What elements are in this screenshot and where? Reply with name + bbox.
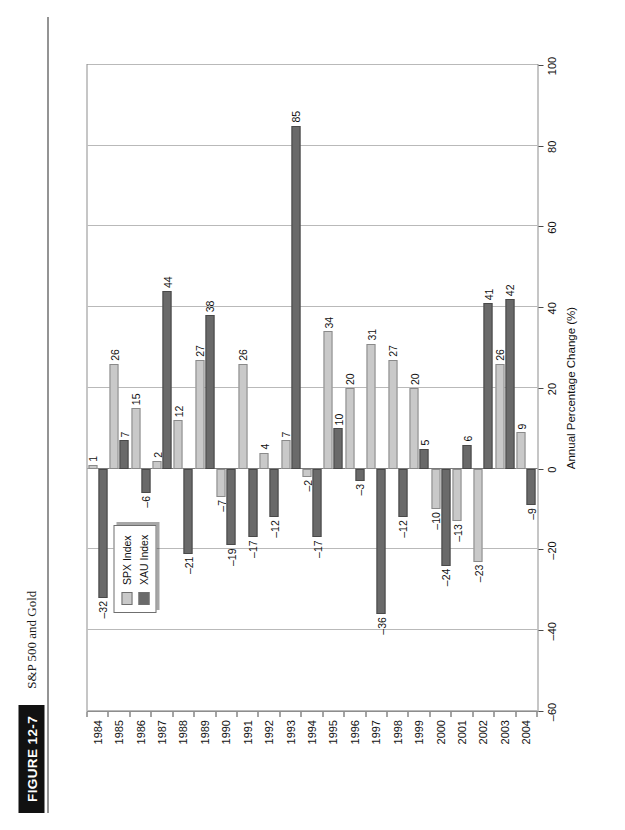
bar-value-label: 38: [203, 301, 215, 313]
legend-item-xau: XAU Index: [137, 535, 149, 605]
category-label: 2002: [476, 720, 488, 744]
category-label: 1990: [219, 720, 231, 744]
category-label: 1987: [155, 720, 167, 744]
bar-value-label: 6: [461, 436, 473, 442]
bar-spx-2001: [452, 469, 461, 521]
plot-inner: 1–3226715–624412–212738–7–1926–174–12785…: [87, 65, 537, 711]
gridline: [87, 629, 537, 630]
bar-value-label: –10: [429, 512, 441, 530]
bar-value-label: 4: [258, 444, 270, 450]
bar-spx-2003: [495, 364, 504, 469]
bar-xau-2000: [441, 469, 450, 566]
bar-spx-1996: [345, 388, 354, 469]
figure-header: FIGURE 12-7 S&P 500 and Gold: [18, 17, 44, 813]
bar-value-label: 42: [503, 285, 515, 297]
bar-spx-1991: [238, 364, 247, 469]
legend-item-spx: SPX Index: [120, 535, 132, 605]
bar-xau-1997: [376, 469, 385, 614]
category-label: 1988: [176, 720, 188, 744]
bar-xau-1987: [162, 291, 171, 469]
bar-value-label: 5: [418, 440, 430, 446]
gridline: [87, 226, 537, 227]
bar-value-label: 41: [482, 289, 494, 301]
bar-spx-1994: [302, 469, 311, 477]
figure-number-badge: FIGURE 12-7: [18, 705, 44, 813]
category-label: 1995: [326, 720, 338, 744]
bar-spx-1988: [173, 420, 182, 468]
category-label: 1991: [241, 720, 253, 744]
bar-value-label: 20: [343, 373, 355, 385]
category-tick: [429, 712, 430, 717]
category-tick: [343, 712, 344, 717]
category-tick: [407, 712, 408, 717]
bar-value-label: 7: [118, 432, 130, 438]
category-label: 1999: [412, 720, 424, 744]
gridline: [87, 306, 537, 307]
bar-value-label: 27: [386, 345, 398, 357]
category-label: 1986: [134, 720, 146, 744]
category-tick: [300, 712, 301, 717]
category-tick: [150, 712, 151, 717]
bar-spx-2004: [516, 432, 525, 468]
bar-value-label: 20: [408, 373, 420, 385]
bar-spx-1993: [281, 441, 290, 469]
value-tick-label: 100: [545, 57, 557, 75]
bar-xau-1995: [333, 428, 342, 468]
category-label: 2000: [434, 720, 446, 744]
bar-xau-1988: [183, 469, 192, 554]
category-tick: [257, 712, 258, 717]
category-tick: [107, 712, 108, 717]
category-tick: [450, 712, 451, 717]
category-tick: [515, 712, 516, 717]
value-tick-label: 80: [545, 141, 557, 153]
category-label: 1984: [91, 720, 103, 744]
category-label: 2003: [498, 720, 510, 744]
bar-value-label: 34: [322, 317, 334, 329]
bar-spx-1986: [131, 408, 140, 469]
value-tick-label: 0: [545, 467, 557, 473]
value-tick-label: 40: [545, 302, 557, 314]
category-tick: [129, 712, 130, 717]
category-label: 1992: [262, 720, 274, 744]
bar-value-label: –17: [246, 540, 258, 558]
bar-value-label: 31: [365, 329, 377, 341]
bar-spx-1992: [259, 453, 268, 469]
bar-spx-2002: [473, 469, 482, 562]
bar-value-label: 85: [289, 111, 301, 123]
category-label: 1998: [391, 720, 403, 744]
category-tick: [472, 712, 473, 717]
category-label: 1985: [112, 720, 124, 744]
bar-xau-1985: [119, 441, 128, 469]
legend-label-spx: SPX Index: [120, 535, 132, 585]
category-label: 1996: [348, 720, 360, 744]
bar-value-label: –36: [375, 617, 387, 635]
value-tick: [538, 227, 543, 228]
category-label: 1994: [305, 720, 317, 744]
chart-panel: 1–3226715–624412–212738–7–1926–174–12785…: [74, 34, 584, 774]
bar-value-label: 15: [129, 394, 141, 406]
bar-xau-2003: [505, 299, 514, 469]
bar-xau-1999: [419, 449, 428, 469]
bar-xau-1984: [98, 469, 107, 598]
category-tick: [193, 712, 194, 717]
category-label: 2004: [519, 720, 531, 744]
bar-value-label: –2: [301, 480, 313, 492]
category-tick: [172, 712, 173, 717]
category-tick: [322, 712, 323, 717]
bar-value-label: 44: [161, 276, 173, 288]
bar-value-label: 27: [193, 345, 205, 357]
gridline: [87, 710, 537, 711]
bar-xau-1989: [205, 315, 214, 468]
value-tick: [538, 711, 543, 712]
category-label: 1997: [369, 720, 381, 744]
header-rule: [47, 17, 49, 813]
bar-value-label: 2: [151, 452, 163, 458]
value-tick-label: 20: [545, 383, 557, 395]
bar-value-label: –24: [439, 569, 451, 587]
figure-title: S&P 500 and Gold: [18, 591, 44, 705]
bar-value-label: –3: [353, 484, 365, 496]
bar-xau-2001: [462, 445, 471, 469]
category-tick: [365, 712, 366, 717]
category-label: 1993: [284, 720, 296, 744]
plot-area: 1–3226715–624412–212738–7–1926–174–12785…: [86, 64, 538, 712]
